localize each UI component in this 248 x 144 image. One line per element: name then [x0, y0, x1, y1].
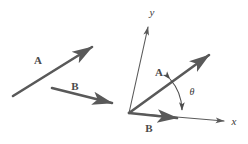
- y-axis-label: y: [149, 6, 155, 18]
- x-axis-label: x: [231, 115, 237, 127]
- free-vectors-panel: A B: [13, 47, 112, 103]
- placed-vector-a-line: [129, 55, 209, 113]
- angle-arc: [170, 79, 182, 110]
- theta-label: θ: [190, 86, 195, 97]
- figure-canvas: A B y x A B θ: [0, 0, 248, 144]
- placed-vector-a-label: A: [155, 66, 163, 78]
- placed-vector-b-label: B: [145, 122, 153, 134]
- free-vector-a-label: A: [34, 54, 42, 66]
- free-vector-b-line: [52, 88, 112, 103]
- free-vector-b-label: B: [71, 80, 79, 92]
- placed-vector-b-line: [129, 113, 177, 118]
- vector-angle-figure: A B y x A B θ: [0, 0, 248, 144]
- tail-to-tail-panel: y x A B θ: [129, 6, 237, 134]
